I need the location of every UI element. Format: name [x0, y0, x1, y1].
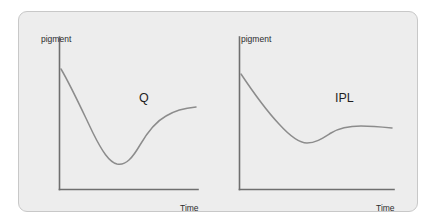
series-label-ipl: IPL	[335, 92, 354, 105]
x-axis-label-ipl: Time	[376, 204, 395, 213]
y-axis-label-q: pigment	[41, 35, 71, 44]
series-label-q: Q	[139, 92, 149, 105]
y-axis-label-ipl: pigment	[241, 35, 271, 44]
curve-ipl	[241, 74, 392, 143]
figure-root: pigment Time Q pigment Time IPL	[0, 0, 436, 223]
chart-q: pigment Time Q	[19, 12, 219, 213]
x-axis-label-q: Time	[180, 204, 199, 213]
chart-ipl: pigment Time IPL	[219, 12, 419, 213]
diagram-panel: pigment Time Q pigment Time IPL	[18, 11, 418, 212]
curve-q	[61, 69, 196, 164]
